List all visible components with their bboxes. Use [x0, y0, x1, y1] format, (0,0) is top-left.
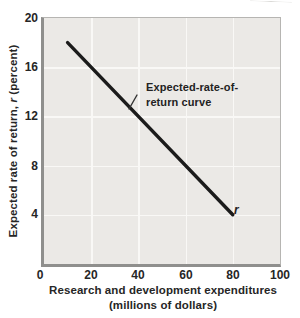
x-axis-title-line1: Research and development expenditures [20, 283, 300, 298]
curve-end-label: r [234, 203, 239, 217]
x-tick-label-60: 60 [179, 268, 192, 282]
curve-annotation: Expected-rate-of- return curve [146, 80, 238, 109]
scan-artifact [250, 0, 292, 2]
x-tick-label-0: 0 [37, 268, 44, 282]
y-axis-title-variable: r [7, 98, 19, 103]
rate-of-return-curve [68, 43, 233, 215]
x-axis-title-line2: (millions of dollars) [20, 298, 300, 313]
x-tick-label-20: 20 [84, 268, 97, 282]
plot-area: Expected-rate-of- return curve r [41, 17, 281, 267]
y-tick-label-8: 8 [0, 159, 38, 173]
x-axis-title: Research and development expenditures (m… [20, 283, 300, 313]
annotation-leader-line [129, 95, 137, 109]
figure-expected-rate-of-return-chart: Expected rate of return, r (percent) 20 … [0, 0, 300, 318]
curve-layer [44, 18, 280, 264]
y-tick-label-20: 20 [0, 11, 38, 25]
y-tick-label-16: 16 [0, 60, 38, 74]
x-tick-label-40: 40 [131, 268, 144, 282]
y-tick-label-12: 12 [0, 109, 38, 123]
x-tick-label-80: 80 [226, 268, 239, 282]
curve-annotation-line1: Expected-rate-of- [146, 80, 238, 95]
y-tick-label-4: 4 [0, 207, 38, 221]
curve-annotation-line2: return curve [146, 95, 238, 110]
x-tick-label-100: 100 [270, 268, 290, 282]
